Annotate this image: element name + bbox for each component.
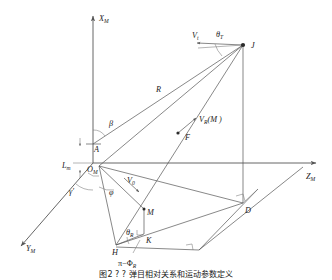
point-dot-m [143,208,146,211]
label-point-j: J [251,41,255,50]
line-h-to-j [116,45,243,245]
label-point-h: H [111,248,119,257]
geometry-diagram-svg: XM ZM YM OM A J F D M K H Lm R Vt θT VR(… [0,0,332,280]
label-length-lm: Lm [61,161,71,171]
label-angle-theta-t: θT [216,30,224,40]
line-a-to-j [93,45,243,144]
label-angle-beta: β [108,119,114,128]
right-angle-marker-d [236,194,245,201]
vector-vt [197,43,243,48]
line-z-to-corner [199,167,303,250]
line-om-to-m [99,166,144,209]
label-angle-phi: φ [109,188,114,197]
label-range-r: R [155,85,161,94]
angle-arc-theta-t [215,44,222,56]
leader-pi-minus-phi [133,240,140,253]
angle-arc-gamma-prime [76,184,93,190]
label-angle-gamma-prime: γ′ [69,187,74,196]
figure-caption: 图2 ? ? 弹目相对关系和运动参数定义 [99,269,232,279]
label-vector-v0: V0 [127,176,135,186]
label-point-d: D [244,206,251,215]
line-om-to-d [99,166,243,203]
label-axis-z: ZM [306,172,316,182]
label-point-k: K [145,236,152,245]
label-vector-vt: Vt [192,31,199,41]
label-point-a: A [93,145,100,154]
angle-arc-beta [93,130,105,136]
label-axis-y: YM [26,244,36,254]
figure-root: XM ZM YM OM A J F D M K H Lm R Vt θT VR(… [0,0,332,280]
vector-vr-m [178,118,196,133]
right-angle-marker-ground [186,244,193,250]
label-angle-pi-minus-phi-r: π−ΦR [118,259,137,269]
axis-y-m [21,163,93,246]
label-point-f: F [184,133,191,142]
label-point-om: OM [87,165,98,175]
line-om-to-h [99,166,116,245]
label-axis-x: XM [98,14,109,24]
point-dot-f [176,131,179,134]
point-dot-j [241,43,245,47]
label-angle-theta-r: θR [126,228,134,238]
right-angle-marker-k [137,230,143,235]
label-vector-vr-m: VR(M ) [199,115,222,125]
line-om-to-j [99,45,243,166]
label-point-m: M [146,208,155,217]
